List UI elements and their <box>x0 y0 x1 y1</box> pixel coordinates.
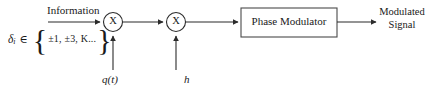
modulated-signal-output-label: ModulatedSignal <box>379 5 425 31</box>
output-label-line2: Signal <box>389 19 416 30</box>
symbol-alphabet-label: δi ∈ { ±1, ±3, K... } <box>8 28 112 50</box>
modulation-index-input-label: h <box>184 73 190 85</box>
output-label-line1: Modulated <box>379 6 425 17</box>
block-diagram: Information δi ∈ { ±1, ±3, K... } X X Ph… <box>0 0 427 98</box>
multiplier-2-label: X <box>168 15 184 26</box>
member-of-symbol: ∈ <box>20 33 28 45</box>
delta-subscript: i <box>13 38 15 47</box>
multiplier-1-label: X <box>105 15 121 26</box>
information-input-label: Information <box>47 4 100 16</box>
phase-modulator-label: Phase Modulator <box>241 15 337 27</box>
alphabet-items: ±1, ±3, K... <box>48 33 96 44</box>
pulse-shape-input-label: q(t) <box>102 73 118 85</box>
